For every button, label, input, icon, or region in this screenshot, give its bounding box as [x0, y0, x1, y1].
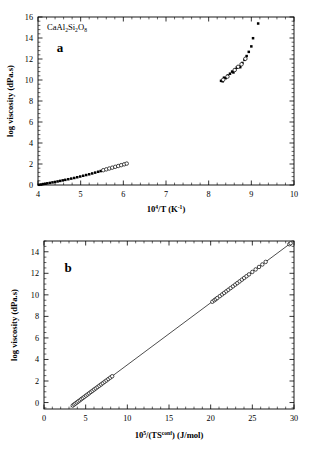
y-tick-label: 8 — [29, 97, 33, 106]
x-tick-label: 9 — [249, 190, 253, 199]
data-point — [247, 273, 251, 277]
data-point — [261, 263, 265, 267]
data-point — [221, 78, 225, 82]
data-point — [91, 172, 94, 175]
data-point — [38, 184, 41, 187]
panel-a-data-points — [38, 22, 260, 186]
panel-a-frame — [38, 17, 294, 185]
x-tick-label: 7 — [164, 190, 168, 199]
panel-a-plot: 456789100246810121416 CaAl2Si2O8 a 104/T… — [0, 0, 314, 228]
y-tick-label: 6 — [35, 334, 39, 343]
x-tick-label: 0 — [42, 414, 46, 423]
data-point — [44, 182, 47, 185]
y-tick-label: 0 — [35, 399, 39, 408]
data-point — [42, 183, 45, 186]
y-tick-label: 2 — [29, 160, 33, 169]
data-point — [85, 174, 88, 177]
panel-a: 456789100246810121416 CaAl2Si2O8 a 104/T… — [0, 0, 314, 228]
y-tick-label: 12 — [31, 269, 39, 278]
x-tick-label: 5 — [79, 190, 83, 199]
x-tick-label: 4 — [36, 190, 40, 199]
data-point — [46, 182, 49, 185]
data-point — [289, 242, 293, 246]
panel-b-frame — [44, 241, 294, 409]
data-point — [76, 176, 79, 179]
data-point — [40, 183, 43, 186]
data-point — [125, 162, 129, 166]
panel-b-plot: 05101520253002468101214 b 105/(TSconf) (… — [0, 227, 314, 455]
data-point — [67, 178, 70, 181]
panel-b-letter: b — [64, 260, 71, 275]
data-point — [49, 182, 52, 185]
x-tick-label: 8 — [207, 190, 211, 199]
data-point — [82, 175, 85, 178]
data-point — [94, 171, 97, 174]
y-tick-label: 10 — [25, 76, 33, 85]
x-tick-label: 20 — [207, 414, 215, 423]
y-tick-label: 4 — [35, 355, 39, 364]
data-point — [64, 179, 67, 182]
y-tick-label: 6 — [29, 118, 33, 127]
data-point — [233, 68, 237, 72]
panel-b-y-axis-title: log viscosity (dPa.s) — [9, 289, 19, 361]
data-point — [244, 57, 248, 61]
data-point — [59, 180, 62, 183]
data-point — [251, 270, 255, 274]
panel-a-sample-label: CaAl2Si2O8 — [47, 22, 87, 33]
x-tick-label: 5 — [84, 414, 88, 423]
data-point — [257, 22, 260, 25]
y-tick-label: 14 — [31, 248, 39, 257]
data-point — [88, 173, 91, 176]
panel-b-x-axis-title: 105/(TSconf) (J/mol) — [135, 430, 204, 440]
panel-b-tickmarks — [44, 241, 294, 409]
series-filled-square — [220, 22, 260, 82]
data-point — [51, 181, 54, 184]
y-tick-label: 4 — [29, 139, 33, 148]
series-open-circle — [102, 162, 129, 172]
panel-a-x-axis-title: 104/T (K-1) — [147, 204, 186, 214]
panel-a-y-axis-title: log viscosity (dPa.s) — [5, 65, 15, 137]
data-point — [250, 45, 253, 48]
data-point — [61, 179, 64, 182]
data-point — [240, 63, 244, 67]
data-point — [264, 260, 268, 264]
y-tick-label: 14 — [25, 34, 33, 43]
data-point — [248, 51, 251, 54]
series-filled-square — [38, 170, 102, 186]
x-tick-label: 30 — [290, 414, 298, 423]
x-tick-label: 10 — [290, 190, 298, 199]
x-tick-label: 25 — [248, 414, 256, 423]
y-tick-label: 2 — [35, 377, 39, 386]
y-tick-label: 12 — [25, 55, 33, 64]
data-point — [236, 65, 240, 69]
data-point — [97, 171, 100, 174]
panel-a-tick-labels: 456789100246810121416 — [25, 13, 298, 199]
viscosity-figure: 456789100246810121416 CaAl2Si2O8 a 104/T… — [0, 0, 314, 455]
data-point — [70, 177, 73, 180]
x-tick-label: 6 — [121, 190, 125, 199]
data-point — [254, 268, 258, 272]
data-point — [73, 177, 76, 180]
y-tick-label: 16 — [25, 13, 33, 22]
data-point — [252, 37, 255, 40]
panel-a-letter: a — [57, 40, 64, 55]
data-point — [54, 181, 57, 184]
y-tick-label: 10 — [31, 291, 39, 300]
x-tick-label: 15 — [165, 414, 173, 423]
x-tick-label: 10 — [123, 414, 131, 423]
data-point — [229, 72, 232, 75]
y-tick-label: 8 — [35, 312, 39, 321]
panel-b: 05101520253002468101214 b 105/(TSconf) (… — [0, 227, 314, 455]
data-point — [56, 180, 59, 183]
panel-a-tickmarks — [38, 17, 294, 185]
y-tick-label: 0 — [29, 181, 33, 190]
data-point — [79, 175, 82, 178]
data-point — [257, 265, 261, 269]
data-point — [110, 375, 114, 379]
data-point — [226, 75, 230, 79]
